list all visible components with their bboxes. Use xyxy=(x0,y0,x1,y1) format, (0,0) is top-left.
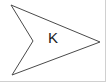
polygon-diagram: K xyxy=(0,0,106,82)
figure-container: K xyxy=(0,0,106,82)
vertex-label-k: K xyxy=(48,29,58,46)
